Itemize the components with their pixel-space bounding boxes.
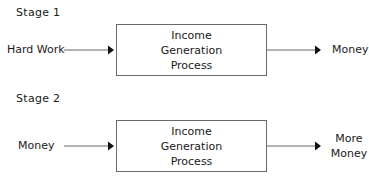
arrowhead-icon bbox=[315, 142, 321, 151]
stage-2-output: More Money bbox=[329, 131, 369, 161]
stage-2-process-label: Income Generation Process bbox=[142, 124, 242, 169]
stage-2-output-line2: Money bbox=[329, 146, 369, 161]
arrowhead-icon bbox=[315, 46, 321, 55]
stage-1-title: Stage 1 bbox=[16, 6, 60, 19]
stage-2-input: Money bbox=[18, 139, 54, 152]
stage-2-output-line1: More bbox=[329, 131, 369, 146]
arrowhead-icon bbox=[108, 142, 114, 151]
stage-1-process-box: Income Generation Process bbox=[116, 24, 267, 76]
stage-1-process-label: Income Generation Process bbox=[142, 28, 242, 73]
stage-1-output: Money bbox=[332, 43, 368, 56]
stage-1-input: Hard Work bbox=[7, 43, 65, 56]
arrowhead-icon bbox=[108, 46, 114, 55]
stage-2-title: Stage 2 bbox=[16, 92, 60, 105]
stage-2-process-box: Income Generation Process bbox=[116, 120, 267, 172]
